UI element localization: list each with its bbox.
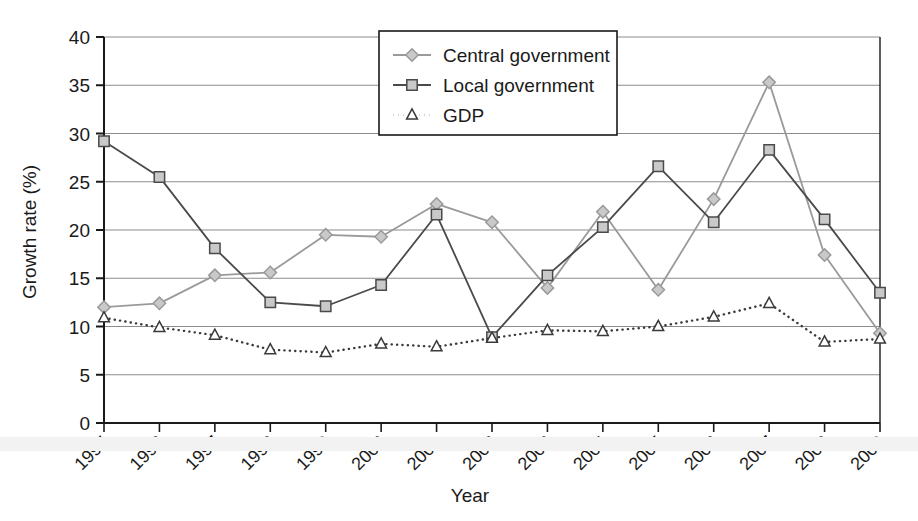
x-tick-label-2000: 2000 [348,432,390,474]
data-point-marker [652,284,664,296]
y-tick-label-25: 25 [69,172,90,193]
growth-rate-line-chart: 0510152025303540 19951996199719981999200… [0,0,918,521]
y-tick-label-0: 0 [79,413,90,434]
data-point-marker [209,269,221,281]
x-tick-label-1999: 1999 [292,432,334,474]
data-point-marker [875,288,885,298]
data-point-marker [708,193,720,205]
data-point-marker [542,270,552,280]
data-point-marker [598,222,608,232]
square-marker-icon [407,80,417,90]
data-point-marker [154,172,164,182]
y-tick-labels-group: 0510152025303540 [69,27,104,434]
data-point-marker [210,243,220,253]
series-local-government [99,136,885,342]
data-point-marker [153,297,165,309]
x-tick-label-2004: 2004 [569,432,611,474]
data-point-marker [264,266,276,278]
x-tick-label-2008: 2008 [791,432,833,474]
data-point-marker [430,198,442,210]
x-tick-label-1997: 1997 [181,432,223,474]
data-point-marker [265,344,276,354]
data-point-marker [709,217,719,227]
x-tick-label-2007: 2007 [736,432,778,474]
y-tick-label-15: 15 [69,268,90,289]
data-point-marker [764,145,774,155]
x-tick-label-1996: 1996 [126,432,168,474]
chart-figure: 0510152025303540 19951996199719981999200… [0,0,918,521]
data-point-marker [653,320,664,330]
x-tick-label-2005: 2005 [625,432,667,474]
data-point-marker [376,338,387,348]
data-point-marker [375,231,387,243]
y-tick-label-30: 30 [69,124,90,145]
legend-label-1: Local government [443,75,595,96]
data-point-marker [431,209,441,219]
x-tick-label-1995: 1995 [70,432,112,474]
x-tick-labels-group: 1995199619971998199920002001200220032004… [70,423,888,474]
legend: Central governmentLocal governmentGDP [379,31,617,135]
data-point-marker [653,161,663,171]
x-tick-label-2003: 2003 [514,432,556,474]
data-point-marker [321,301,331,311]
data-point-marker [764,297,775,307]
data-point-marker [597,205,609,217]
legend-label-0: Central government [443,45,611,66]
y-tick-label-40: 40 [69,27,90,48]
x-axis-title: Year [451,485,490,506]
data-point-marker [818,249,830,261]
y-tick-label-10: 10 [69,317,90,338]
x-tick-label-2002: 2002 [458,432,500,474]
data-point-marker [99,136,109,146]
data-point-marker [376,280,386,290]
y-axis-title: Growth rate (%) [19,165,40,299]
data-point-marker [99,312,110,322]
x-tick-label-1998: 1998 [237,432,279,474]
data-point-marker [819,214,829,224]
legend-label-2: GDP [443,105,484,126]
series-line-2 [104,303,880,352]
x-tick-label-2006: 2006 [680,432,722,474]
y-tick-label-35: 35 [69,75,90,96]
y-tick-label-20: 20 [69,220,90,241]
x-tick-label-2009: 2009 [846,432,888,474]
data-point-marker [542,324,553,334]
data-point-marker [265,297,275,307]
data-point-marker [763,76,775,88]
x-tick-label-2001: 2001 [403,432,445,474]
y-tick-label-5: 5 [79,365,90,386]
